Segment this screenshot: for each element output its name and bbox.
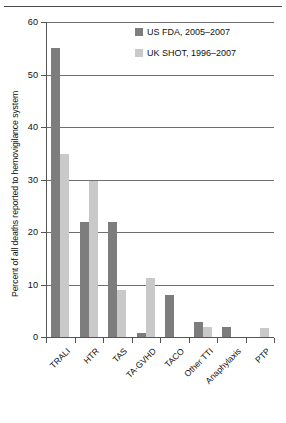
bar	[60, 154, 69, 337]
x-tick-mark	[46, 338, 47, 343]
bar-group	[108, 22, 126, 337]
dark-gray-swatch	[135, 28, 143, 36]
bar	[51, 48, 60, 337]
bar-group	[80, 22, 98, 337]
bar-group	[51, 22, 69, 337]
bar-group	[222, 22, 240, 337]
bar	[89, 181, 98, 337]
legend-label: UK SHOT, 1996–2007	[147, 48, 236, 58]
y-axis-line	[46, 22, 47, 338]
y-axis-title: Percent of all deaths reported to hemovi…	[10, 44, 20, 344]
y-tick-label: 60	[28, 17, 38, 27]
bar-group	[137, 22, 155, 337]
legend-item: UK SHOT, 1996–2007	[135, 48, 236, 58]
y-tick-label: 30	[28, 175, 38, 185]
bar	[146, 278, 155, 337]
figure: Percent of all deaths reported to hemovi…	[0, 0, 286, 423]
y-tick-label: 40	[28, 122, 38, 132]
bar-group	[194, 22, 212, 337]
bar-group	[251, 22, 269, 337]
bar	[203, 327, 212, 338]
bar	[108, 222, 117, 338]
legend-label: US FDA, 2005–2007	[147, 27, 230, 37]
light-gray-swatch	[135, 49, 143, 57]
y-tick-label: 0	[33, 332, 38, 342]
bar-group	[165, 22, 183, 337]
top-divider-rule	[4, 6, 282, 7]
bar	[80, 222, 89, 338]
legend-item: US FDA, 2005–2007	[135, 27, 236, 37]
y-tick-label: 20	[28, 227, 38, 237]
plot-area: 0102030405060 TRALIHTRTASTA-GVHDTACOOthe…	[46, 22, 274, 338]
bar	[117, 290, 126, 337]
y-tick-label: 10	[28, 280, 38, 290]
bar	[137, 333, 146, 337]
y-tick-label: 50	[28, 70, 38, 80]
chart-legend: US FDA, 2005–2007UK SHOT, 1996–2007	[135, 27, 236, 69]
